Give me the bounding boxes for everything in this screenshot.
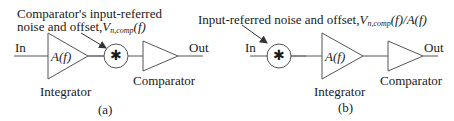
panel-b-caption: (b) <box>338 101 353 114</box>
panel-a-comparator-label: Comparator <box>133 74 195 87</box>
panel-a-output-label: Out <box>189 41 209 54</box>
panel-a-annotation-subscript: n,comp <box>110 26 133 35</box>
panel-a-integrator-gain: A(f) <box>51 50 71 63</box>
panel-b-integrator-label: Integrator <box>314 85 365 98</box>
panel-b-output-label: Out <box>424 41 444 54</box>
panel-a-integrator-label: Integrator <box>40 85 91 98</box>
panel-a-annotation-suffix: (f) <box>134 19 146 34</box>
panel-a-summer-symbol: ✱ <box>110 49 122 62</box>
panel-b-annotation-prefix: Input-referred noise and offset, <box>198 12 359 27</box>
panel-b-annotation-suffix: (f)/A(f) <box>391 12 427 27</box>
panel-b-summer-symbol: ✱ <box>273 49 285 62</box>
panel-a-annotation-line2: noise and offset,Vn,comp(f) <box>17 20 146 37</box>
panel-a-annotation-prefix: noise and offset, <box>17 19 102 34</box>
panel-a-input-label: In <box>15 41 26 54</box>
panel-b-input-label: In <box>245 41 256 54</box>
panel-b-integrator-gain: A(f) <box>325 50 345 63</box>
panel-a-comparator-triangle <box>143 41 178 71</box>
panel-b-annotation-subscript: n,comp <box>367 19 390 28</box>
panel-b-comparator-triangle <box>388 41 423 71</box>
panel-b-comparator-label: Comparator <box>380 74 442 87</box>
panel-a-caption: (a) <box>98 103 112 116</box>
panel-b-annotation: Input-referred noise and offset,Vn,comp(… <box>198 13 427 30</box>
